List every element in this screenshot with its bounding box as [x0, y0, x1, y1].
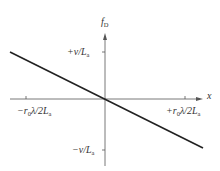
tick-label-y-pos: +v/La — [67, 47, 89, 59]
plot-graphics — [0, 0, 220, 171]
y-axis-arrow-icon — [103, 33, 107, 40]
x-axis-label: x — [207, 91, 211, 101]
y-axis-label: fD — [101, 17, 108, 29]
tick-label-x-pos: +r0λ/2La — [166, 106, 200, 118]
doppler-frequency-diagram: fD x +v/La −v/La −r0λ/2La +r0λ/2La — [0, 0, 220, 171]
tick-label-y-neg: −v/La — [72, 145, 94, 157]
x-axis-arrow-icon — [196, 97, 203, 101]
tick-label-x-neg: −r0λ/2La — [17, 106, 51, 118]
fd-line — [10, 52, 203, 148]
